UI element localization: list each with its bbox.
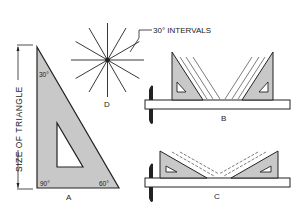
triangle-diagram: SIZE OF TRIANGLE 30° 90° 60° A D 30° INT… xyxy=(0,0,295,214)
angle-90-label: 90° xyxy=(40,180,50,187)
view-b xyxy=(145,52,290,124)
view-d-label: D xyxy=(104,100,110,109)
size-of-triangle-label: SIZE OF TRIANGLE xyxy=(14,86,24,172)
view-d-star xyxy=(71,23,144,97)
view-a-label: A xyxy=(66,193,72,202)
angle-30-label: 30° xyxy=(39,71,49,78)
angle-60-label: 60° xyxy=(99,180,109,187)
view-b-label: B xyxy=(221,114,226,123)
view-c-label: C xyxy=(214,192,220,201)
intervals-leader xyxy=(130,30,152,52)
intervals-label: 30° INTERVALS xyxy=(153,26,211,35)
